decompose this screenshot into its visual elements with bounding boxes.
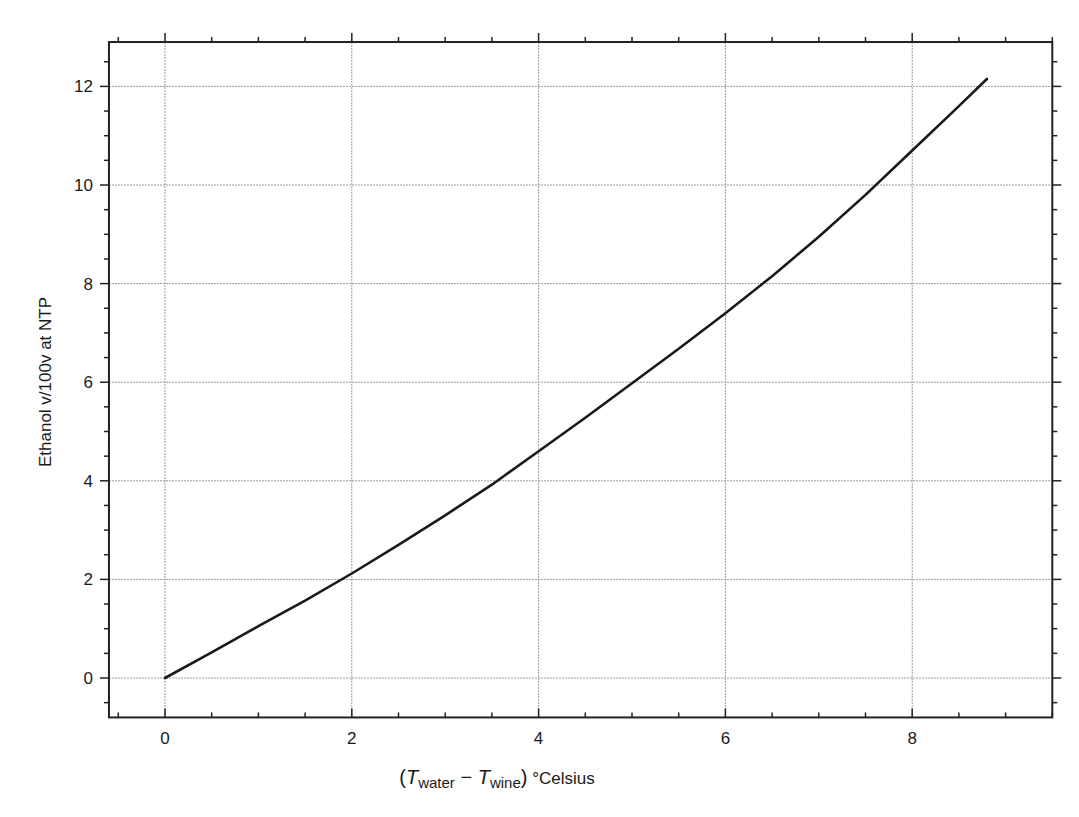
y-tick-label: 6: [83, 373, 92, 392]
y-tick-label: 10: [74, 176, 93, 195]
x-axis-tick-labels: 02468: [160, 729, 917, 748]
x-tick-label: 8: [907, 729, 916, 748]
xlabel-sub-water: water: [417, 774, 455, 791]
x-axis-label: (Twater − Twine) °Celsius: [399, 766, 594, 791]
plot-frame: [109, 42, 1052, 717]
axis-ticks: [100, 33, 1061, 717]
line-chart: 02468 024681012 (Twater − Twine) °Celsiu…: [0, 0, 1079, 817]
y-tick-label: 12: [74, 77, 93, 96]
grid-lines: [109, 42, 1052, 717]
data-series-line: [165, 79, 987, 678]
xlabel-unit: °Celsius: [527, 769, 594, 788]
x-tick-label: 0: [160, 729, 169, 748]
y-tick-label: 4: [83, 472, 92, 491]
y-tick-label: 8: [83, 275, 92, 294]
x-tick-label: 2: [347, 729, 356, 748]
xlabel-close-paren: ): [521, 766, 528, 788]
x-tick-label: 4: [534, 729, 543, 748]
y-tick-label: 2: [83, 570, 92, 589]
y-tick-label: 0: [83, 669, 92, 688]
y-axis-label: Ethanol v/100v at NTP: [36, 297, 55, 467]
xlabel-sub-wine: wine: [489, 774, 521, 791]
xlabel-minus: −: [455, 766, 478, 788]
x-tick-label: 6: [721, 729, 730, 748]
y-axis-tick-labels: 024681012: [74, 77, 93, 688]
